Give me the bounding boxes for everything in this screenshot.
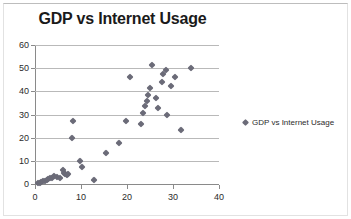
data-point-marker xyxy=(168,82,175,89)
x-axis-tick-label: 0 xyxy=(20,192,50,202)
chart-title: GDP vs Internet Usage xyxy=(0,10,245,28)
data-point-marker xyxy=(70,118,77,125)
data-point-marker xyxy=(152,95,159,102)
data-point-marker xyxy=(115,140,122,147)
plot-area xyxy=(35,45,219,184)
data-point-marker xyxy=(158,79,165,86)
y-axis-tick-label: 60 xyxy=(3,40,29,50)
data-point-marker xyxy=(172,74,179,81)
data-point-marker xyxy=(178,126,185,133)
data-point-marker xyxy=(137,120,144,127)
x-axis-tick-label: 30 xyxy=(158,192,188,202)
gridline-horizontal xyxy=(35,138,219,139)
gridline-horizontal xyxy=(35,91,219,92)
y-axis-tick xyxy=(31,138,35,139)
data-point-marker xyxy=(103,149,110,156)
legend-marker-icon xyxy=(242,119,249,126)
data-point-marker xyxy=(155,104,162,111)
y-axis-tick xyxy=(31,45,35,46)
gridline-horizontal xyxy=(35,45,219,46)
y-axis-tick-label: 30 xyxy=(3,110,29,120)
y-axis-tick-label: 40 xyxy=(3,86,29,96)
x-axis-tick xyxy=(81,185,82,189)
data-point-marker xyxy=(188,65,195,72)
gridline-horizontal xyxy=(35,161,219,162)
data-point-marker xyxy=(126,74,133,81)
data-point-marker xyxy=(146,84,153,91)
data-point-marker xyxy=(123,118,130,125)
y-axis-tick-label: 0 xyxy=(3,179,29,189)
x-axis-tick xyxy=(35,185,36,189)
x-axis-tick xyxy=(127,185,128,189)
data-point-marker xyxy=(79,163,86,170)
x-axis-tick-label: 40 xyxy=(204,192,234,202)
y-axis-tick xyxy=(31,115,35,116)
data-point-marker xyxy=(140,110,147,117)
y-axis-tick xyxy=(31,68,35,69)
chart-legend: GDP vs Internet Usage xyxy=(243,118,334,127)
y-axis-tick-label: 50 xyxy=(3,63,29,73)
chart-container: GDP vs Internet Usage 0102030405060 GDP … xyxy=(0,0,351,219)
data-point-marker xyxy=(164,111,171,118)
x-axis-tick-label: 10 xyxy=(66,192,96,202)
data-point-marker xyxy=(69,134,76,141)
y-axis-tick-label: 20 xyxy=(3,133,29,143)
x-axis-tick-label: 20 xyxy=(112,192,142,202)
gridline-horizontal xyxy=(35,115,219,116)
data-point-marker xyxy=(148,61,155,68)
legend-label: GDP vs Internet Usage xyxy=(252,118,334,127)
x-axis-tick xyxy=(173,185,174,189)
y-axis-tick-label: 10 xyxy=(3,156,29,166)
y-axis-tick xyxy=(31,161,35,162)
y-axis-tick xyxy=(31,91,35,92)
x-axis-tick xyxy=(219,185,220,189)
data-point-marker xyxy=(91,177,98,184)
y-axis-tick-labels: 0102030405060 xyxy=(0,0,29,219)
